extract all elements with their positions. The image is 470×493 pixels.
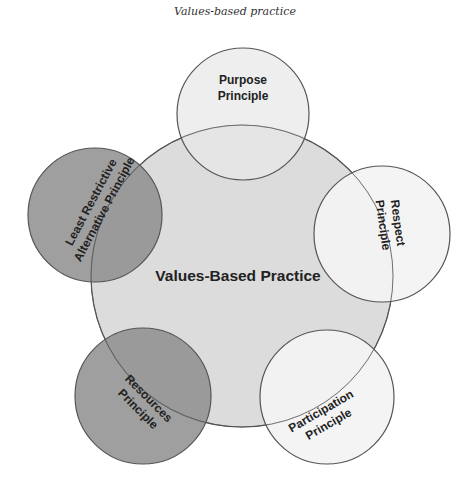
center-label: Values-Based Practice	[155, 267, 321, 284]
purpose-circle	[177, 48, 309, 180]
values-based-practice-diagram: Values-Based Practice Purpose Principle …	[0, 0, 470, 493]
svg-text:Purpose: Purpose	[219, 73, 267, 87]
svg-text:Principle: Principle	[218, 89, 269, 103]
